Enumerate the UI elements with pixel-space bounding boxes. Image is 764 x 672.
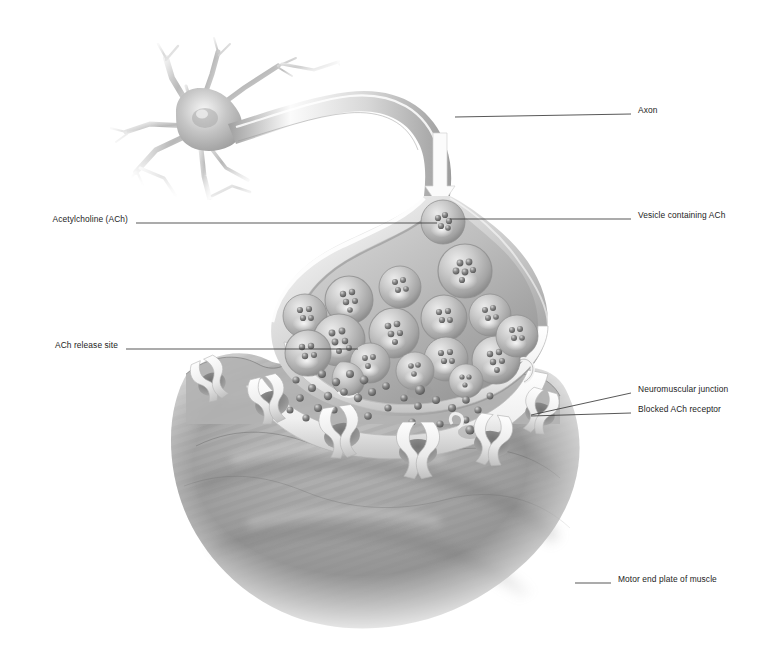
- vesicle: [496, 315, 538, 357]
- label-neuromuscular-junction: Neuromuscular junction: [638, 384, 728, 394]
- label-blocked-ach-receptor: Blocked ACh receptor: [638, 404, 721, 414]
- vesicle: [396, 352, 434, 390]
- label-ach-release-site: ACh release site: [0, 340, 118, 350]
- label-acetylcholine-ach: Acetylcholine (ACh): [0, 214, 128, 224]
- nucleolus-highlight: [196, 110, 208, 119]
- figure-canvas: AxonVesicle containing AChAcetylcholine …: [0, 0, 764, 672]
- vesicle: [379, 266, 421, 308]
- vesicle: [438, 244, 492, 298]
- label-vesicle-containing-ach: Vesicle containing ACh: [638, 210, 725, 220]
- neuromuscular-junction-illustration: [0, 0, 764, 672]
- vesicle: [449, 364, 483, 398]
- label-axon: Axon: [638, 105, 658, 115]
- vesicle: [285, 330, 331, 376]
- vesicle: [421, 295, 467, 341]
- label-motor-end-plate-of-muscle: Motor end plate of muscle: [618, 574, 717, 584]
- vesicle: [421, 200, 465, 244]
